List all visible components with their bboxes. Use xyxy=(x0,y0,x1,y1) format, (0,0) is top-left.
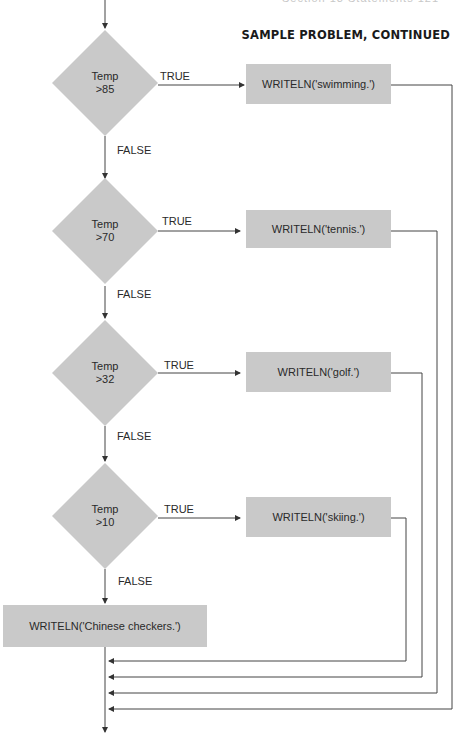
decision-temp-gt-70: Temp >70 xyxy=(52,178,158,284)
action-box-tennis: WRITELN('tennis.') xyxy=(246,210,391,248)
decision-temp-gt-85: Temp >85 xyxy=(52,30,158,136)
decision-label: Temp >10 xyxy=(52,503,158,529)
true-label: TRUE xyxy=(164,359,194,371)
true-label: TRUE xyxy=(160,70,190,82)
true-label: TRUE xyxy=(164,503,194,515)
decision-label: Temp >32 xyxy=(52,360,158,386)
true-label: TRUE xyxy=(162,215,192,227)
false-label: FALSE xyxy=(117,430,151,442)
action-box-skiing: WRITELN('skiing.') xyxy=(246,497,391,537)
decision-temp-gt-32: Temp >32 xyxy=(52,320,158,426)
decision-label: Temp >70 xyxy=(52,218,158,244)
action-box-chinese-checkers: WRITELN('Chinese checkers.') xyxy=(3,605,207,647)
false-label: FALSE xyxy=(117,288,151,300)
false-label: FALSE xyxy=(118,575,152,587)
action-box-golf: WRITELN('golf.') xyxy=(246,352,391,392)
false-label: FALSE xyxy=(117,144,151,156)
decision-temp-gt-10: Temp >10 xyxy=(52,463,158,569)
decision-label: Temp >85 xyxy=(52,70,158,96)
action-box-swimming: WRITELN('swimming.') xyxy=(246,64,391,104)
